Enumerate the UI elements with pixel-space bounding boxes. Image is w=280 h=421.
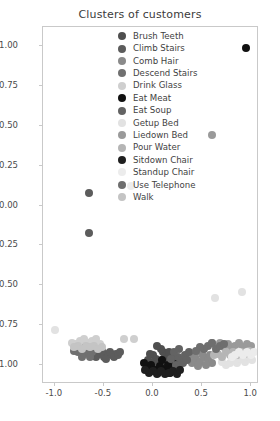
scatter-point bbox=[70, 343, 78, 351]
legend-item-label: Liedown Bed bbox=[133, 131, 188, 140]
y-tick-mark bbox=[39, 125, 42, 126]
y-tick-label: 0.75 bbox=[0, 80, 18, 90]
x-tick-mark bbox=[152, 383, 153, 386]
scatter-point bbox=[141, 366, 149, 374]
legend-item[interactable]: Drink Glass bbox=[118, 80, 238, 92]
scatter-point bbox=[192, 347, 200, 355]
legend-marker-icon bbox=[118, 144, 126, 152]
legend-item-label: Comb Hair bbox=[133, 57, 178, 66]
y-tick-label: -0.50 bbox=[0, 279, 18, 289]
legend-item[interactable]: Walk bbox=[118, 191, 238, 203]
scatter-point bbox=[175, 345, 183, 353]
scatter-point bbox=[98, 343, 106, 351]
x-tick-mark bbox=[250, 383, 251, 386]
legend-item[interactable]: Descend Stairs bbox=[118, 67, 238, 79]
legend-item[interactable]: Brush Teeth bbox=[118, 30, 238, 42]
y-tick-mark bbox=[39, 284, 42, 285]
scatter-point bbox=[250, 348, 257, 356]
y-tick-label: -1.00 bbox=[0, 359, 18, 369]
legend-item[interactable]: Sitdown Chair bbox=[118, 154, 238, 166]
legend-marker-icon bbox=[118, 193, 126, 201]
scatter-point bbox=[211, 294, 219, 302]
scatter-point bbox=[238, 288, 246, 296]
legend-item[interactable]: Liedown Bed bbox=[118, 129, 238, 141]
legend-item-label: Eat Meat bbox=[133, 94, 171, 103]
legend-item[interactable]: Eat Soup bbox=[118, 104, 238, 116]
x-tick-label: -1.0 bbox=[45, 388, 62, 398]
y-tick-mark bbox=[39, 244, 42, 245]
scatter-point bbox=[85, 189, 93, 197]
legend-item-label: Walk bbox=[133, 193, 154, 202]
y-tick-label: -0.75 bbox=[0, 319, 18, 329]
legend-marker-icon bbox=[118, 156, 126, 164]
y-tick-mark bbox=[39, 205, 42, 206]
scatter-point bbox=[202, 361, 210, 369]
y-tick-label: 0.25 bbox=[0, 160, 18, 170]
y-tick-mark bbox=[39, 165, 42, 166]
legend-marker-icon bbox=[118, 168, 126, 176]
y-tick-label: 0.50 bbox=[0, 120, 18, 130]
chart-legend: Brush TeethClimb StairsComb HairDescend … bbox=[118, 30, 238, 203]
x-tick-mark bbox=[201, 383, 202, 386]
scatter-point bbox=[146, 350, 154, 358]
legend-marker-icon bbox=[118, 131, 126, 139]
scatter-point bbox=[158, 356, 166, 364]
scatter-point bbox=[51, 326, 59, 334]
x-tick-label: 0.0 bbox=[145, 388, 159, 398]
legend-marker-icon bbox=[118, 119, 126, 127]
legend-item[interactable]: Comb Hair bbox=[118, 55, 238, 67]
y-tick-label: -0.25 bbox=[0, 239, 18, 249]
x-tick-mark bbox=[54, 383, 55, 386]
scatter-point bbox=[194, 362, 202, 370]
legend-item-label: Descend Stairs bbox=[133, 69, 198, 78]
legend-item[interactable]: Getup Bed bbox=[118, 117, 238, 129]
legend-marker-icon bbox=[118, 181, 126, 189]
scatter-point bbox=[242, 44, 250, 52]
legend-item[interactable]: Pour Water bbox=[118, 142, 238, 154]
scatter-plot-figure: Clusters of customers 1.000.750.500.250.… bbox=[0, 0, 280, 421]
legend-item[interactable]: Standup Chair bbox=[118, 166, 238, 178]
x-tick-label: 1.0 bbox=[243, 388, 257, 398]
x-tick-label: -0.5 bbox=[95, 388, 112, 398]
scatter-point bbox=[220, 340, 228, 348]
chart-title: Clusters of customers bbox=[0, 8, 280, 21]
scatter-point bbox=[183, 356, 191, 364]
y-tick-mark bbox=[39, 364, 42, 365]
legend-marker-icon bbox=[118, 32, 126, 40]
y-tick-label: 0.00 bbox=[0, 200, 18, 210]
legend-item-label: Eat Soup bbox=[133, 106, 171, 115]
scatter-point bbox=[228, 353, 236, 361]
legend-item-label: Brush Teeth bbox=[133, 32, 184, 41]
legend-item-label: Standup Chair bbox=[133, 168, 194, 177]
scatter-point bbox=[176, 366, 184, 374]
scatter-point bbox=[86, 353, 94, 361]
y-tick-mark bbox=[39, 324, 42, 325]
legend-item-label: Use Telephone bbox=[133, 181, 195, 190]
y-tick-mark bbox=[39, 85, 42, 86]
y-tick-label: 1.00 bbox=[0, 40, 18, 50]
legend-marker-icon bbox=[118, 82, 126, 90]
legend-marker-icon bbox=[118, 57, 126, 65]
x-tick-label: 0.5 bbox=[194, 388, 208, 398]
legend-marker-icon bbox=[118, 45, 126, 53]
scatter-point bbox=[153, 342, 161, 350]
scatter-point bbox=[116, 348, 124, 356]
legend-item-label: Pour Water bbox=[133, 143, 180, 152]
legend-item[interactable]: Use Telephone bbox=[118, 179, 238, 191]
scatter-point bbox=[120, 335, 128, 343]
legend-item[interactable]: Eat Meat bbox=[118, 92, 238, 104]
x-tick-mark bbox=[103, 383, 104, 386]
scatter-point bbox=[85, 229, 93, 237]
legend-marker-icon bbox=[118, 107, 126, 115]
legend-marker-icon bbox=[118, 94, 126, 102]
legend-item-label: Sitdown Chair bbox=[133, 156, 193, 165]
legend-item-label: Drink Glass bbox=[133, 81, 182, 90]
legend-item-label: Getup Bed bbox=[133, 119, 179, 128]
legend-item[interactable]: Climb Stairs bbox=[118, 42, 238, 54]
legend-item-label: Climb Stairs bbox=[133, 44, 185, 53]
y-tick-mark bbox=[39, 45, 42, 46]
scatter-point bbox=[130, 335, 138, 343]
legend-marker-icon bbox=[118, 69, 126, 77]
